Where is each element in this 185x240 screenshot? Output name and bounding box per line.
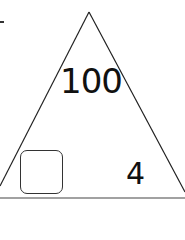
top-number: 100 <box>60 64 122 98</box>
bottom-right-number: 4 <box>126 159 145 189</box>
answer-box[interactable] <box>20 150 63 194</box>
